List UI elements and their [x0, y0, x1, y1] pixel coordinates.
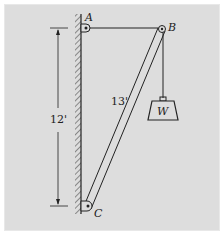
pin-c — [81, 201, 92, 211]
pin-a — [81, 24, 90, 32]
label-a: A — [85, 11, 93, 24]
label-w: W — [157, 105, 168, 118]
boom-length-label: 13' — [111, 95, 128, 108]
label-c: C — [94, 207, 102, 220]
height-label: 12' — [50, 113, 67, 126]
pin-b — [159, 26, 166, 33]
label-b: B — [168, 21, 176, 34]
wall — [75, 14, 81, 214]
diagram-svg — [0, 0, 224, 235]
